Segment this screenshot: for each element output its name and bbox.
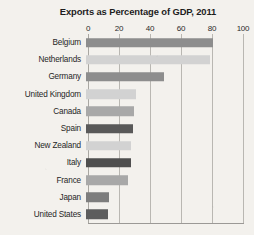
bar-row: New Zealand	[0, 137, 254, 154]
bar-track	[86, 206, 254, 223]
bar-row: Japan	[0, 189, 254, 206]
bar-new-zealand	[86, 141, 131, 151]
category-label-france: France	[0, 176, 86, 185]
bar-spain	[86, 124, 133, 134]
category-label-germany: Germany	[0, 72, 86, 81]
bar-row: Italy	[0, 154, 254, 171]
bar-row: Spain	[0, 120, 254, 137]
bar-track	[86, 51, 254, 68]
category-label-new-zealand: New Zealand	[0, 141, 86, 150]
bar-germany	[86, 72, 164, 82]
category-label-belgium: Belgium	[0, 38, 86, 47]
bar-track	[86, 189, 254, 206]
category-label-netherlands: Netherlands	[0, 55, 86, 64]
bar-row: Germany	[0, 68, 254, 85]
category-label-canada: Canada	[0, 107, 86, 116]
exports-gdp-bar-chart: Exports as Percentage of GDP, 2011 02040…	[0, 0, 254, 235]
axis-baseline	[88, 223, 244, 224]
bar-japan	[86, 193, 109, 203]
bar-track	[86, 86, 254, 103]
bar-track	[86, 120, 254, 137]
bar-track	[86, 137, 254, 154]
bar-row: Canada	[0, 103, 254, 120]
bar-united-kingdom	[86, 89, 136, 99]
category-label-united-kingdom: United Kingdom	[0, 90, 86, 99]
x-tick-label-60: 60	[177, 24, 186, 33]
category-label-spain: Spain	[0, 124, 86, 133]
bar-france	[86, 175, 128, 185]
category-label-italy: Italy	[0, 158, 86, 167]
bar-row: France	[0, 172, 254, 189]
x-axis: 020406080100	[88, 24, 243, 34]
bar-row: United States	[0, 206, 254, 223]
bar-track	[86, 154, 254, 171]
bar-track	[86, 68, 254, 85]
bar-canada	[86, 107, 134, 117]
bar-track	[86, 172, 254, 189]
category-label-japan: Japan	[0, 193, 86, 202]
bar-united-states	[86, 210, 108, 220]
chart-title: Exports as Percentage of GDP, 2011	[0, 6, 254, 17]
bar-row: Belgium	[0, 34, 254, 51]
bar-row: Netherlands	[0, 51, 254, 68]
bar-track	[86, 34, 254, 51]
x-tick-label-100: 100	[237, 24, 250, 33]
bar-rows: BelgiumNetherlandsGermanyUnited KingdomC…	[0, 34, 254, 224]
x-tick-label-80: 80	[208, 24, 217, 33]
x-tick-label-0: 0	[86, 24, 90, 33]
bar-track	[86, 103, 254, 120]
bar-italy	[86, 158, 131, 168]
bar-netherlands	[86, 55, 210, 65]
x-tick-label-20: 20	[115, 24, 124, 33]
category-label-united-states: United States	[0, 210, 86, 219]
x-tick-label-40: 40	[146, 24, 155, 33]
bar-row: United Kingdom	[0, 86, 254, 103]
bar-belgium	[86, 38, 213, 48]
